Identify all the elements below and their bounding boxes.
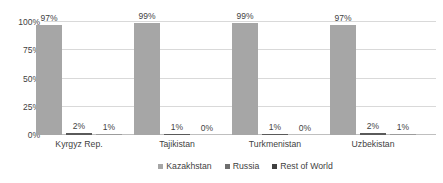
bar[interactable] (360, 133, 386, 135)
legend-swatch-icon (272, 164, 277, 169)
bar[interactable] (262, 134, 288, 136)
bar[interactable] (232, 23, 258, 135)
bar-slot: 2% (66, 22, 92, 135)
chart-legend: KazakhstanRussiaRest of World (0, 162, 443, 171)
bar-slot: 0% (292, 22, 318, 135)
y-tick-label: 100% (0, 18, 40, 27)
bar-value-label: 99% (138, 12, 155, 21)
bar-slot: 1% (164, 22, 190, 135)
plot-area: 97%2%1%99%1%0%99%1%0%97%2%1% (44, 22, 436, 135)
bar-value-label: 97% (40, 14, 57, 23)
legend-label: Russia (233, 162, 260, 171)
bar-slot: 1% (96, 22, 122, 135)
y-tick-label: 50% (0, 74, 40, 83)
x-tick-label: Tajikistan (159, 139, 195, 149)
y-tick-label: 75% (0, 46, 40, 55)
bar-slot: 0% (194, 22, 220, 135)
legend-swatch-icon (158, 164, 163, 169)
x-axis-labels: Kyrgyz Rep.TajikistanTurkmenistanUzbekis… (44, 139, 436, 153)
legend-item[interactable]: Russia (225, 162, 260, 171)
bar-slot: 99% (134, 22, 160, 135)
bar-slot: 1% (262, 22, 288, 135)
bar[interactable] (36, 25, 62, 135)
legend-item[interactable]: Kazakhstan (158, 162, 211, 171)
bar[interactable] (390, 134, 416, 136)
legend-label: Rest of World (280, 162, 332, 171)
bar[interactable] (66, 133, 92, 135)
bar[interactable] (96, 134, 122, 136)
bar[interactable] (134, 23, 160, 135)
x-tick-label: Uzbekistan (352, 139, 395, 149)
bar-slot: 97% (36, 22, 62, 135)
bar-group: 97%2%1% (44, 22, 142, 135)
legend-item[interactable]: Rest of World (272, 162, 332, 171)
bar-slot: 2% (360, 22, 386, 135)
legend-label: Kazakhstan (166, 162, 211, 171)
bar-slot: 99% (232, 22, 258, 135)
legend-swatch-icon (225, 164, 230, 169)
y-axis-labels: 0%25%50%75%100% (0, 22, 40, 135)
bar-slot: 1% (390, 22, 416, 135)
bar[interactable] (330, 25, 356, 135)
x-tick-label: Turkmenistan (249, 139, 301, 149)
bar-value-label: 1% (171, 123, 183, 132)
y-tick-label: 25% (0, 103, 40, 112)
bar-value-label: 99% (236, 12, 253, 21)
bar-value-label: 2% (367, 122, 379, 131)
bar-value-label: 1% (397, 123, 409, 132)
bar-chart: 0%25%50%75%100% 97%2%1%99%1%0%99%1%0%97%… (0, 0, 443, 183)
y-tick-label: 0% (0, 131, 40, 140)
bar-group: 99%1%0% (142, 22, 240, 135)
bar[interactable] (164, 134, 190, 136)
bar-group: 97%2%1% (338, 22, 436, 135)
bar-value-label: 0% (299, 124, 311, 133)
x-tick-label: Kyrgyz Rep. (55, 139, 102, 149)
bar-group: 99%1%0% (240, 22, 338, 135)
bar-value-label: 1% (269, 123, 281, 132)
bar-value-label: 2% (73, 122, 85, 131)
bar-value-label: 0% (201, 124, 213, 133)
bar-value-label: 1% (103, 123, 115, 132)
bar-slot: 97% (330, 22, 356, 135)
bar-value-label: 97% (334, 14, 351, 23)
